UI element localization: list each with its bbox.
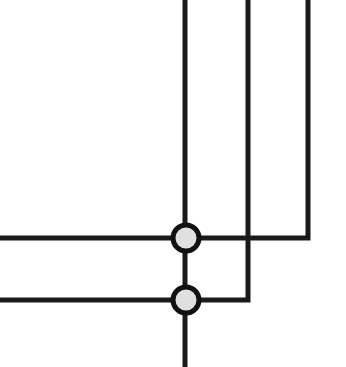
wire-v2 <box>0 0 248 300</box>
junction-node-icon <box>173 225 199 251</box>
wire-v3 <box>0 0 308 238</box>
wire-diagram <box>0 0 346 367</box>
junction-node-icon <box>173 287 199 313</box>
wires-group <box>0 0 308 367</box>
